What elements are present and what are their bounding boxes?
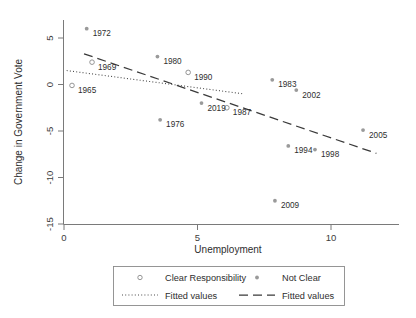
legend-filled-circle-icon <box>255 276 259 280</box>
data-point-2019: 2019 <box>200 101 227 112</box>
x-axis-ticks: 0 5 10 <box>61 225 336 244</box>
data-point-2005: 2005 <box>361 128 388 139</box>
point-label-2019: 2019 <box>208 104 227 113</box>
filled-circle-marker <box>85 27 89 31</box>
data-points-layer: 1965196919901987197219801976201919832002… <box>70 27 388 210</box>
legend-label-not-clear: Not Clear <box>282 273 321 283</box>
point-label-1990: 1990 <box>194 73 213 82</box>
data-point-1994: 1994 <box>286 144 313 155</box>
data-point-1983: 1983 <box>270 78 297 89</box>
x-tick-label-0: 0 <box>61 232 66 243</box>
point-label-1976: 1976 <box>166 120 185 129</box>
filled-circle-marker <box>270 78 274 82</box>
filled-circle-marker <box>273 199 277 203</box>
point-label-1969: 1969 <box>98 63 117 72</box>
data-point-1987: 1987 <box>225 105 252 117</box>
plot-canvas: 5 0 -5 -10 -15 0 5 10 Unemployment Chang… <box>0 0 416 318</box>
point-label-2002: 2002 <box>302 91 321 100</box>
data-point-1969: 1969 <box>90 60 117 72</box>
y-tick-label-5: 5 <box>44 35 55 40</box>
legend-label-clear-responsibility: Clear Responsibility <box>165 273 247 283</box>
filled-circle-marker <box>156 55 160 59</box>
open-circle-marker <box>70 83 75 88</box>
point-label-1994: 1994 <box>294 146 313 155</box>
x-tick-label-10: 10 <box>326 232 337 243</box>
fitted-line-dashed <box>84 54 376 154</box>
y-axis-ticks: 5 0 -5 -10 -15 <box>44 35 64 231</box>
y-tick-label-neg5: -5 <box>44 127 55 135</box>
data-point-1998: 1998 <box>313 148 340 159</box>
point-label-1987: 1987 <box>233 108 252 117</box>
point-label-1998: 1998 <box>321 150 340 159</box>
y-axis-title: Change in Government Vote <box>13 58 24 185</box>
legend: Clear Responsibility Not Clear Fitted va… <box>114 267 345 306</box>
point-label-2009: 2009 <box>281 201 300 210</box>
data-point-2002: 2002 <box>294 88 321 99</box>
y-tick-label-neg10: -10 <box>44 171 55 185</box>
filled-circle-marker <box>286 144 290 148</box>
open-circle-marker <box>186 70 191 75</box>
data-point-1972: 1972 <box>85 27 112 38</box>
filled-circle-marker <box>200 101 204 105</box>
scatter-plot-figure: 5 0 -5 -10 -15 0 5 10 Unemployment Chang… <box>0 0 416 318</box>
filled-circle-marker <box>158 118 162 122</box>
point-label-2005: 2005 <box>369 131 388 140</box>
y-tick-label-neg15: -15 <box>44 217 55 231</box>
filled-circle-marker <box>313 148 317 152</box>
point-label-1983: 1983 <box>278 80 297 89</box>
x-axis-title: Unemployment <box>194 244 261 255</box>
data-point-1980: 1980 <box>156 55 183 66</box>
data-point-2009: 2009 <box>273 199 300 210</box>
data-point-1976: 1976 <box>158 118 185 129</box>
x-tick-label-5: 5 <box>195 232 200 243</box>
open-circle-marker <box>90 60 95 65</box>
filled-circle-marker <box>294 88 298 92</box>
data-point-1965: 1965 <box>70 83 97 95</box>
y-tick-label-0: 0 <box>44 82 55 87</box>
legend-label-fitted-values-clear: Fitted values <box>165 291 217 301</box>
point-label-1980: 1980 <box>163 57 182 66</box>
point-label-1965: 1965 <box>78 86 97 95</box>
filled-circle-marker <box>361 128 365 132</box>
point-label-1972: 1972 <box>93 29 112 38</box>
data-point-1990: 1990 <box>186 70 213 82</box>
legend-label-fitted-values-notclear: Fitted values <box>282 291 334 301</box>
